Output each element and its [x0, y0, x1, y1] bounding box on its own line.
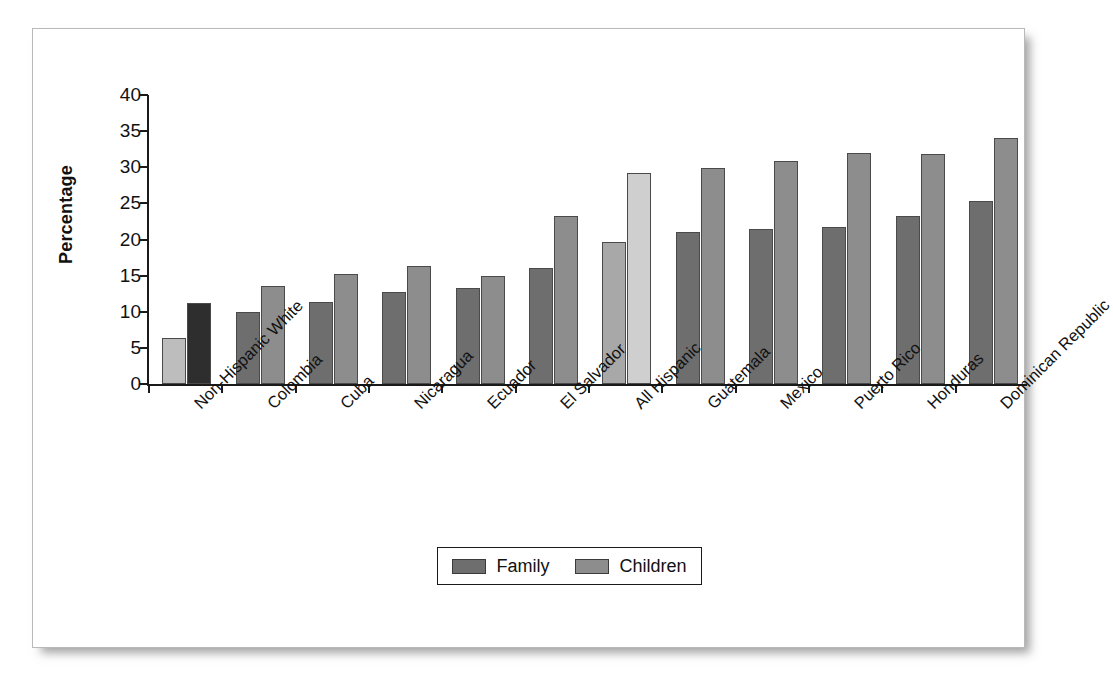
- x-axis-label: Guatemala: [704, 343, 773, 412]
- chart-card: Percentage 0510152025303540 Non-Hispanic…: [32, 28, 1025, 648]
- x-axis-label: Colombia: [264, 351, 325, 412]
- legend-entry-family: Family: [452, 557, 549, 575]
- x-axis-label: Mexico: [777, 363, 826, 412]
- x-axis-label: El Salvador: [557, 340, 629, 412]
- legend-entry-children: Children: [575, 557, 686, 575]
- x-axis-label: Puerto Rico: [851, 339, 924, 412]
- x-axis-label: Ecuador: [484, 357, 539, 412]
- x-axis-label: Dominican Republic: [997, 296, 1113, 412]
- legend-swatch-icon: [575, 559, 609, 574]
- x-axis-label: All Hispanic: [631, 339, 704, 412]
- legend-label: Children: [619, 557, 686, 575]
- plot-area: Percentage 0510152025303540 Non-Hispanic…: [33, 29, 1024, 647]
- x-axis-label: Cuba: [337, 372, 377, 412]
- x-axis-label: Honduras: [924, 349, 987, 412]
- x-axis-label: Nicaragua: [411, 347, 476, 412]
- legend-label: Family: [496, 557, 549, 575]
- legend-swatch-icon: [452, 559, 486, 574]
- chart-legend: FamilyChildren: [437, 547, 702, 585]
